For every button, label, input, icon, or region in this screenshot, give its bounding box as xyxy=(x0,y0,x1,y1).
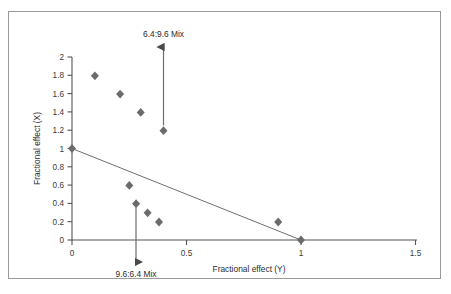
y-tick-label: 0 xyxy=(59,236,64,245)
x-axis-title: Fractional effect (Y) xyxy=(213,264,286,274)
data-point xyxy=(160,126,168,135)
y-tick-label: 1.8 xyxy=(53,71,65,80)
x-tick-marks xyxy=(72,240,416,245)
data-point xyxy=(132,199,140,208)
y-tick-label: 1.4 xyxy=(53,108,65,117)
y-tick-label: 2 xyxy=(59,53,64,62)
x-tick-label: 1 xyxy=(299,249,304,258)
data-point xyxy=(144,208,152,217)
y-tick-label: 1.6 xyxy=(53,90,65,99)
y-tick-label: 0.6 xyxy=(53,181,65,190)
y-axis: 2 1.8 1.6 1.4 1.2 1 0.8 0.6 0.4 0.2 0 Fr… xyxy=(32,53,72,245)
y-axis-title: Fractional effect (X) xyxy=(32,112,42,185)
data-point xyxy=(125,181,133,190)
y-tick-label: 0.2 xyxy=(53,218,65,227)
data-point xyxy=(137,108,145,117)
y-tick-label: 0.8 xyxy=(53,163,65,172)
data-point xyxy=(91,71,99,80)
upper-mix-annotation: 6.4:9.6 Mix xyxy=(143,29,185,126)
y-tick-label: 1.2 xyxy=(53,126,65,135)
upper-annotation-label: 6.4:9.6 Mix xyxy=(143,29,185,39)
x-tick-label: 1.5 xyxy=(410,249,422,258)
line-of-additivity xyxy=(72,149,301,241)
data-series-antagonistic xyxy=(91,71,168,135)
y-tick-label: 1 xyxy=(59,145,64,154)
data-point xyxy=(116,90,124,99)
x-tick-label: 0.5 xyxy=(181,249,193,258)
data-point xyxy=(155,218,163,227)
x-tick-label: 0 xyxy=(70,249,75,258)
data-point xyxy=(68,144,76,153)
lower-annotation-label: 9.6:6.4 Mix xyxy=(116,269,158,279)
data-point xyxy=(274,218,282,227)
y-tick-label: 0.4 xyxy=(53,199,65,208)
isobologram-chart: 2 1.8 1.6 1.4 1.2 1 0.8 0.6 0.4 0.2 0 Fr… xyxy=(0,0,451,294)
figure-container: 2 1.8 1.6 1.4 1.2 1 0.8 0.6 0.4 0.2 0 Fr… xyxy=(0,0,451,294)
data-point xyxy=(297,236,305,245)
data-series-synergistic xyxy=(125,181,282,226)
lower-mix-annotation: 9.6:6.4 Mix xyxy=(116,207,158,279)
